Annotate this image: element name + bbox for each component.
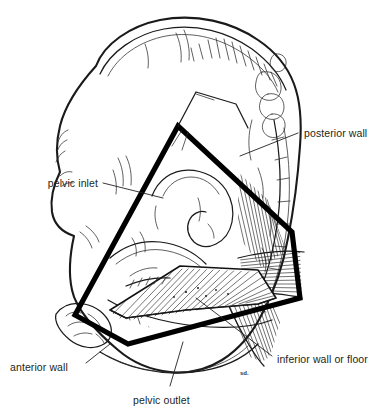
label-pelvic-inlet: pelvic inlet bbox=[48, 177, 98, 189]
label-anterior-wall: anterior wall bbox=[10, 361, 68, 373]
label-pelvic-outlet: pelvic outlet bbox=[133, 394, 190, 406]
pelvis-diagram-canvas: sd. posterior wall pelvic inlet anterior… bbox=[0, 0, 392, 418]
label-posterior-wall: posterior wall bbox=[304, 127, 367, 139]
artist-signature-text: sd. bbox=[240, 370, 249, 376]
label-inferior-wall-or-floor: inferior wall or floor bbox=[277, 353, 368, 365]
artist-signature-mark: sd. bbox=[240, 370, 249, 376]
pelvis-anatomy-figure: sd. posterior wall pelvic inlet anterior… bbox=[0, 0, 392, 418]
